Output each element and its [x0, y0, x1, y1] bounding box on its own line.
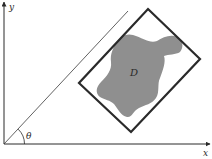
y-axis-label: y: [8, 2, 15, 12]
angle-arc: [18, 129, 24, 144]
region-d: [97, 34, 183, 117]
region-label: D: [129, 67, 138, 78]
angle-label: θ: [26, 131, 32, 141]
x-axis-label: x: [203, 148, 208, 158]
diagram-canvas: y x θ D: [0, 0, 212, 159]
